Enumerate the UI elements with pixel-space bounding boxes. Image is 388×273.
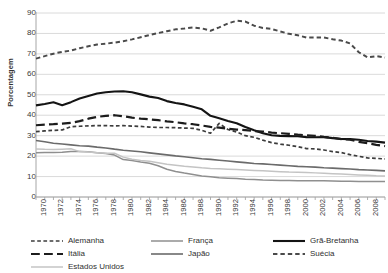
legend-label: Grã-Bretanha [310, 236, 358, 245]
legend-label: Estados Unidos [68, 262, 124, 271]
series-line-estados-unidos [36, 149, 385, 176]
x-tick-label: 1976 [91, 199, 100, 216]
x-tick-label: 1974 [74, 199, 83, 216]
legend-swatch-estados-unidos [30, 261, 64, 272]
x-tick-label: 1972 [56, 199, 65, 216]
legend-item[interactable]: Suécia [272, 247, 334, 259]
x-tick-label: 2000 [301, 199, 310, 216]
legend-label: Japão [188, 249, 210, 258]
x-axis-tick-labels: 1970197219741976197819801982198419861988… [0, 199, 388, 233]
x-tick-label: 2006 [353, 199, 362, 216]
series-line-it-lia [36, 115, 385, 146]
legend-swatch-it-lia [30, 248, 64, 259]
legend-label: Suécia [310, 249, 334, 258]
x-tick-label: 1996 [266, 199, 275, 216]
plot-area: Porcentagem 0102030405060708090 19701972… [0, 0, 388, 232]
x-tick-label: 1970 [39, 199, 48, 216]
chart-legend: AlemanhaItáliaEstados UnidosFrançaJapãoG… [0, 232, 388, 273]
series-line-su-cia [36, 21, 385, 59]
legend-label: Itália [68, 249, 85, 258]
x-tick-label: 1992 [231, 199, 240, 216]
legend-swatch-jap-o [150, 248, 184, 259]
chart-svg [0, 0, 388, 200]
x-tick-label: 1986 [179, 199, 188, 216]
x-tick-label: 1982 [144, 199, 153, 216]
data-series [36, 21, 385, 182]
legend-item[interactable]: Estados Unidos [30, 260, 124, 272]
x-tick-label: 2002 [318, 199, 327, 216]
chart-container: Porcentagem 0102030405060708090 19701972… [0, 0, 388, 273]
legend-label: França [188, 236, 213, 245]
x-tick-label: 1988 [196, 199, 205, 216]
legend-swatch-fran-a [150, 235, 184, 246]
x-tick-label: 2004 [336, 199, 345, 216]
legend-item[interactable]: França [150, 234, 213, 246]
legend-item[interactable]: Grã-Bretanha [272, 234, 358, 246]
legend-item[interactable]: Alemanha [30, 234, 104, 246]
x-tick-label: 1980 [126, 199, 135, 216]
x-tick-label: 2008 [371, 199, 380, 216]
gridlines [36, 13, 385, 197]
legend-label: Alemanha [68, 236, 104, 245]
x-tick-label: 1998 [283, 199, 292, 216]
x-tick-label: 1978 [109, 199, 118, 216]
legend-item[interactable]: Japão [150, 247, 210, 259]
series-line-gr-bretanha [36, 91, 385, 142]
x-tick-label: 1984 [161, 199, 170, 216]
x-tick-label: 1990 [214, 199, 223, 216]
legend-swatch-su-cia [272, 248, 306, 259]
series-line-alemanha [36, 123, 385, 159]
legend-swatch-gr-bretanha [272, 235, 306, 246]
legend-swatch-alemanha [30, 235, 64, 246]
legend-item[interactable]: Itália [30, 247, 85, 259]
x-tick-label: 1994 [248, 199, 257, 216]
series-line-jap-o [36, 141, 385, 171]
